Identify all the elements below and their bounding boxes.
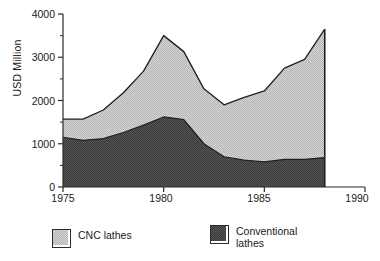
y-axis-tick-labels: 4000 3000 2000 1000 0 <box>0 0 55 261</box>
series-layer <box>63 29 325 187</box>
y-tick-label-1000: 1000 <box>32 138 55 150</box>
x-tick-label-1980: 1980 <box>149 192 172 204</box>
legend-item-cnc-lathes: CNC lathes <box>52 228 132 248</box>
y-tick-label-3000: 3000 <box>32 51 55 63</box>
chart-figure: USD Million 4000 3000 2000 1000 0 1975 1… <box>0 0 380 261</box>
y-axis-ticks <box>58 14 63 187</box>
y-tick-label-2000: 2000 <box>32 95 55 107</box>
legend-swatch-conventional-lathes <box>210 225 229 244</box>
chart-legend: CNC lathes Conventional lathes <box>52 224 372 258</box>
legend-label-cnc-lathes: CNC lathes <box>78 228 132 242</box>
plot-area <box>0 0 380 261</box>
legend-label-conventional-lathes: Conventional lathes <box>236 224 297 249</box>
legend-item-conventional-lathes: Conventional lathes <box>210 224 297 249</box>
legend-swatch-cnc-lathes <box>52 229 71 248</box>
x-tick-label-1975: 1975 <box>51 192 74 204</box>
y-tick-label-4000: 4000 <box>32 8 55 20</box>
x-axis-ticks <box>63 187 365 192</box>
x-tick-label-1985: 1985 <box>247 192 270 204</box>
x-tick-label-1990: 1990 <box>345 192 368 204</box>
